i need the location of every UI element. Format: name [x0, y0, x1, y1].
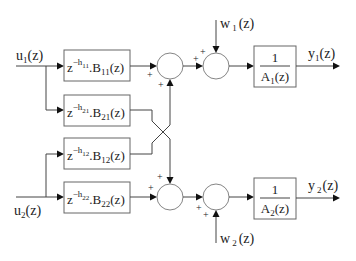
summing-junction-s3: [157, 184, 183, 210]
svg-text:A2(z): A2(z): [261, 201, 289, 218]
plus-sign: +: [158, 79, 164, 90]
arrow-head: [57, 151, 64, 158]
arrow-head: [247, 63, 254, 70]
plus-sign: +: [193, 53, 199, 64]
arrow-head: [57, 107, 64, 114]
cross-line-b12-to-s1: [130, 86, 170, 154]
arrow-head: [196, 63, 203, 70]
block-diagram: u1(z) u2(z) z−h11.B11(z) z−h21.B21(z) z−…: [0, 0, 356, 261]
arrow-head: [333, 63, 340, 70]
arrow-head: [213, 46, 220, 53]
block-a2: 1 A2(z): [254, 178, 296, 219]
branch-line-u1-to-b21: [46, 66, 58, 110]
summing-junction-s1: [157, 53, 183, 79]
block-b22: z−h22.B22(z): [64, 182, 130, 213]
block-a1: 1 A1(z): [254, 46, 296, 87]
plus-sign: +: [196, 202, 202, 213]
arrow-head: [150, 194, 157, 201]
disturbance-label-w1: w1(z): [220, 16, 255, 33]
plus-sign: +: [203, 209, 209, 220]
arrow-head: [196, 194, 203, 201]
disturbance-label-w2: w2(z): [220, 231, 255, 248]
input-label-u1: u1(z): [16, 48, 43, 65]
output-label-y2: y2(z): [308, 178, 338, 195]
branch-line-u2-to-b12: [46, 154, 58, 197]
plus-sign: +: [157, 171, 163, 182]
arrow-head: [57, 63, 64, 70]
input-label-u2: u2(z): [14, 203, 41, 220]
output-label-y1: y1(z): [308, 46, 335, 63]
arrow-head: [247, 194, 254, 201]
arrow-head: [167, 79, 174, 86]
plus-sign: +: [147, 69, 153, 80]
svg-text:1: 1: [272, 50, 279, 65]
svg-text:1: 1: [272, 182, 279, 197]
svg-text:A1(z): A1(z): [261, 69, 289, 86]
block-b12: z−h12.B12(z): [64, 138, 130, 169]
arrow-head: [213, 210, 220, 217]
block-b21: z−h21.B21(z): [64, 95, 130, 126]
arrow-head: [333, 195, 340, 202]
summing-junction-s2: [203, 53, 229, 79]
cross-line-b21-to-s3: [130, 110, 170, 177]
arrow-head: [167, 177, 174, 184]
plus-sign: +: [148, 182, 154, 193]
summing-junction-s4: [203, 184, 229, 210]
arrow-head: [57, 194, 64, 201]
plus-sign: +: [200, 46, 206, 57]
block-b11: z−h11.B11(z): [64, 50, 130, 81]
